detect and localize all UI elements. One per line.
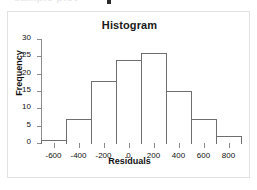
y-tick-label-30: 30 [22,33,31,42]
x-tick-600 [204,143,205,148]
x-tick-label-0: 0 [126,151,130,160]
x-tick-200 [154,143,155,148]
x-tick--200 [104,143,105,148]
x-tick--600 [54,143,55,148]
x-tick-label-400: 400 [172,151,185,160]
x-tick-label-200: 200 [147,151,160,160]
x-tick-0 [129,143,130,148]
y-tick-label-20: 20 [22,68,31,77]
y-tick-15: 15 [37,91,42,92]
y-tick-30: 30 [37,39,42,40]
bar-bin-2 [66,119,92,144]
bar-bin-7 [191,119,217,144]
chart-title: Histogram [8,19,251,31]
screenshot-canvas: sample plot Histogram Frequency Residual… [0,0,257,190]
y-tick-label-15: 15 [22,85,31,94]
y-tick-5: 5 [37,126,42,127]
bar-bin-5 [141,53,167,144]
cropped-heading-text: sample plot [14,0,77,3]
bar-bin-4 [116,60,142,144]
bar-bin-6 [166,91,192,144]
y-tick-10: 10 [37,108,42,109]
y-tick-label-10: 10 [22,102,31,111]
x-tick--400 [79,143,80,148]
x-tick-label-600: 600 [197,151,210,160]
x-tick-800 [229,143,230,148]
x-tick-400 [179,143,180,148]
cropped-top-text-sliver: sample plot [0,0,257,9]
x-tick-label--200: -200 [95,151,111,160]
y-tick-label-25: 25 [22,50,31,59]
histogram-chart: Histogram Frequency Residuals 30 25 20 1… [7,11,250,178]
plot-area: 30 25 20 15 10 5 0 [41,39,241,143]
x-tick-label-800: 800 [222,151,235,160]
y-tick-25: 25 [37,56,42,57]
x-tick-label--400: -400 [70,151,86,160]
bar-bin-3 [91,81,117,144]
x-tick-label--600: -600 [45,151,61,160]
y-tick-20: 20 [37,74,42,75]
y-tick-label-5: 5 [27,120,31,129]
cropped-bullet-mark [107,0,111,4]
y-tick-label-0: 0 [27,137,31,146]
